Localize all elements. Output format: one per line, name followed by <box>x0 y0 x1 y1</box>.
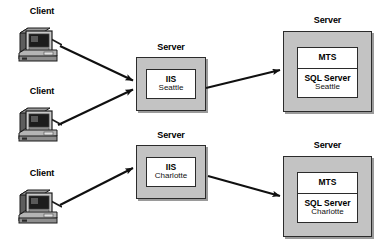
web-server-seattle-panel: IIS Seattle <box>146 69 196 99</box>
web-server-charlotte-panel: IIS Charlotte <box>146 157 196 187</box>
client-1-label: Client <box>19 6 65 16</box>
iis-seattle-subtitle: Seattle <box>159 84 184 93</box>
arrow-client1-to-iis-seattle <box>60 46 133 81</box>
data-server-seattle-panel: MTS SQL Server Seattle <box>297 47 358 98</box>
arrow-client3-to-iis-charlotte <box>60 168 133 205</box>
data-server-charlotte-panel: MTS SQL Server Charlotte <box>297 172 358 223</box>
arrow-client2-to-iis-seattle <box>58 90 133 126</box>
data-server-seattle-label: Server <box>283 15 372 25</box>
data-server-charlotte-label: Server <box>283 140 372 150</box>
desktop-computer-icon <box>16 23 62 63</box>
desktop-computer-icon <box>16 103 62 143</box>
desktop-computer-icon <box>16 185 62 225</box>
iis-charlotte-subtitle: Charlotte <box>155 172 187 181</box>
iis-seattle-cell: IIS Seattle <box>147 70 195 98</box>
network-topology-diagram: Client Client <box>0 0 384 246</box>
arrow-iis-charlotte-to-sql-charlotte <box>208 176 280 196</box>
web-server-charlotte-label: Server <box>136 130 206 140</box>
arrow-iis-seattle-to-sql-seattle <box>206 70 280 88</box>
mts-seattle-title: MTS <box>319 53 337 63</box>
sql-server-seattle-cell: SQL Server Seattle <box>298 68 357 97</box>
sql-server-charlotte-cell: SQL Server Charlotte <box>298 193 357 222</box>
sql-server-charlotte-subtitle: Charlotte <box>311 208 343 217</box>
mts-charlotte-title: MTS <box>319 178 337 188</box>
client-3-label: Client <box>19 168 65 178</box>
iis-charlotte-cell: IIS Charlotte <box>147 158 195 186</box>
sql-server-seattle-subtitle: Seattle <box>315 83 340 92</box>
web-server-seattle-label: Server <box>136 42 206 52</box>
mts-charlotte-cell: MTS <box>298 173 357 193</box>
client-2-label: Client <box>19 86 65 96</box>
mts-seattle-cell: MTS <box>298 48 357 68</box>
